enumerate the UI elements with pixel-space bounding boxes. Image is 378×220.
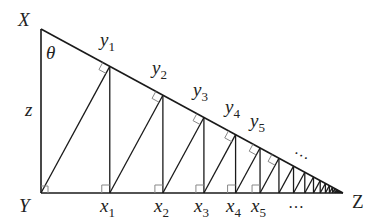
perpendicular-segment bbox=[110, 95, 163, 193]
perpendicular-segment bbox=[320, 183, 325, 193]
right-angle-marker bbox=[102, 185, 110, 193]
vertex-z-label: Z bbox=[352, 192, 364, 211]
point-y1-label: y1 bbox=[100, 30, 115, 53]
perpendicular-segment bbox=[305, 177, 314, 193]
point-x1-label: x1 bbox=[100, 196, 115, 219]
point-x2-label: x2 bbox=[154, 196, 169, 219]
vertex-x-label: X bbox=[18, 10, 30, 29]
right-angle-marker bbox=[252, 185, 260, 193]
perpendicular-segment bbox=[279, 166, 294, 193]
right-angle-marker bbox=[228, 185, 236, 193]
diagram-canvas: X Y Z θ z y1 y2 y3 y4 y5 x1 x2 x3 x4 x5 … bbox=[0, 0, 378, 220]
point-x4-label: x4 bbox=[226, 196, 241, 219]
point-x5-label: x5 bbox=[251, 196, 266, 219]
right-angle-marker bbox=[196, 185, 204, 193]
side-xz bbox=[41, 29, 343, 193]
perpendicular-segment bbox=[163, 117, 204, 193]
perpendicular-segment bbox=[260, 158, 279, 193]
perpendicular-segment bbox=[204, 135, 236, 193]
perpendicular-segment bbox=[294, 172, 305, 193]
point-y5-label: y5 bbox=[250, 111, 265, 134]
angle-theta-label: θ bbox=[46, 43, 55, 62]
point-y4-label: y4 bbox=[225, 97, 240, 120]
perpendicular-construction bbox=[41, 66, 342, 193]
side-z-label: z bbox=[25, 100, 32, 119]
point-y2-label: y2 bbox=[152, 58, 167, 81]
triangle-diagram bbox=[0, 0, 378, 220]
vertex-y-label: Y bbox=[19, 196, 30, 215]
right-angle-marker bbox=[155, 185, 163, 193]
perpendicular-segment bbox=[313, 181, 320, 193]
perpendicular-segment bbox=[41, 66, 110, 193]
point-x3-label: x3 bbox=[194, 196, 209, 219]
perpendicular-segment bbox=[236, 148, 260, 193]
ellipsis-bottom: … bbox=[288, 194, 305, 212]
point-y3-label: y3 bbox=[193, 80, 208, 103]
